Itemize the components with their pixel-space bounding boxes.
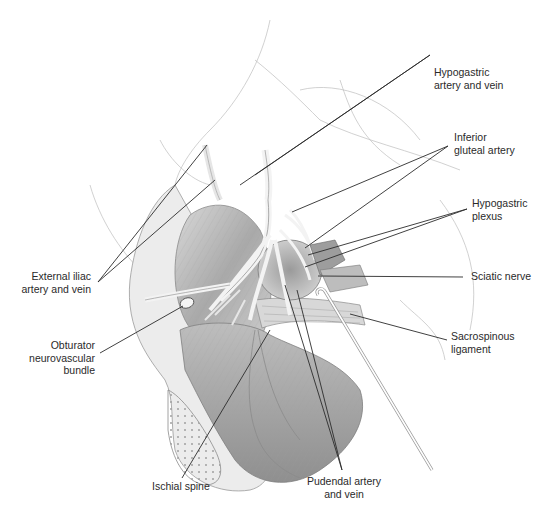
label-ischial-spine: Ischial spine (152, 480, 210, 493)
label-obturator-bundle: Obturator neurovascular bundle (0, 339, 95, 377)
label-inferior-gluteal-artery: Inferior gluteal artery (454, 131, 515, 156)
label-hypogastric-artery-vein: Hypogastric artery and vein (434, 66, 503, 91)
label-hypogastric-plexus: Hypogastric plexus (472, 197, 527, 222)
leader-sacrospinous (350, 314, 447, 340)
label-pudendal-artery-vein: Pudendal artery and vein (296, 475, 392, 500)
sacrospinous-ligament-shape (255, 298, 365, 328)
label-sciatic-nerve: Sciatic nerve (471, 270, 531, 283)
label-external-iliac: External iliac artery and vein (0, 270, 91, 295)
leader-hypogastric-plexus-1 (308, 209, 467, 255)
label-sacrospinous-ligament: Sacrospinous ligament (451, 330, 515, 355)
leader-hypogastric-plexus-2 (305, 209, 467, 267)
